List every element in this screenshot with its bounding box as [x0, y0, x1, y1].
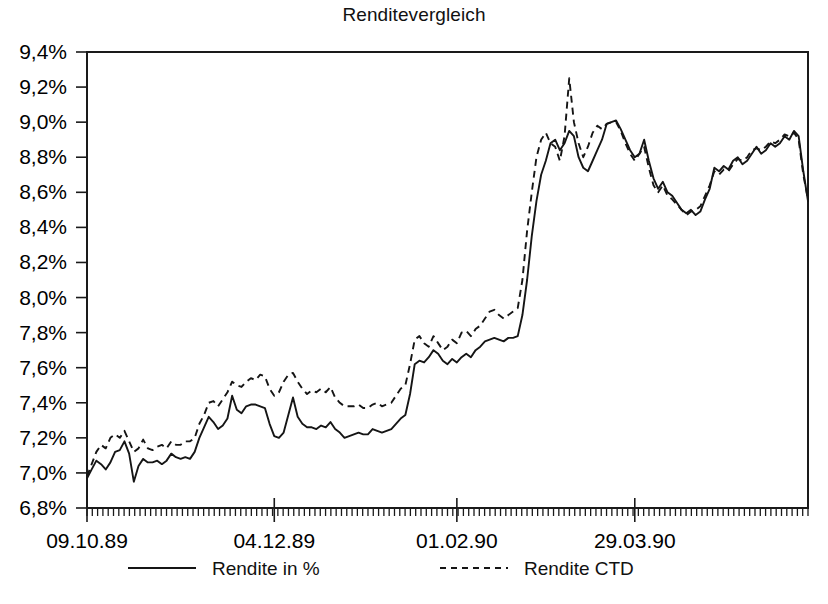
x-axis-tick-labels: 09.10.8904.12.8901.02.9029.03.90	[46, 529, 676, 552]
chart-figure: Renditevergleich 9,4%9,2%9,0%8,8%8,6%8,4…	[0, 0, 828, 604]
y-axis-tick-label: 6,8%	[19, 496, 67, 519]
y-axis-tick-label: 7,8%	[19, 321, 67, 344]
y-axis-tick-label: 8,8%	[19, 145, 67, 168]
y-axis-tick-label: 8,0%	[19, 286, 67, 309]
chart-plot: 9,4%9,2%9,0%8,8%8,6%8,4%8,2%8,0%7,8%7,6%…	[0, 0, 828, 604]
y-axis-tick-label: 8,2%	[19, 250, 67, 273]
y-axis-tick-label: 9,4%	[19, 40, 67, 63]
legend-label: Rendite in %	[212, 558, 320, 579]
series-line-rendite-in-prozent	[87, 120, 808, 481]
y-axis-tick-marks	[76, 52, 87, 508]
x-axis-tick-label: 09.10.89	[46, 529, 128, 552]
y-axis-tick-label: 9,2%	[19, 75, 67, 98]
y-axis-tick-labels: 9,4%9,2%9,0%8,8%8,6%8,4%8,2%8,0%7,8%7,6%…	[19, 40, 67, 519]
y-axis-tick-label: 8,6%	[19, 180, 67, 203]
legend-label: Rendite CTD	[524, 558, 634, 579]
x-axis-minor-ticks	[87, 508, 808, 516]
y-axis-tick-label: 7,2%	[19, 426, 67, 449]
x-axis-tick-label: 29.03.90	[594, 529, 676, 552]
series-line-rendite-ctd	[87, 78, 808, 476]
y-axis-tick-label: 8,4%	[19, 215, 67, 238]
y-axis-tick-label: 7,0%	[19, 461, 67, 484]
x-axis-tick-label: 01.02.90	[416, 529, 498, 552]
y-axis-tick-label: 7,6%	[19, 356, 67, 379]
y-axis-tick-label: 9,0%	[19, 110, 67, 133]
y-axis-tick-label: 7,4%	[19, 391, 67, 414]
chart-legend: Rendite in %Rendite CTD	[128, 558, 634, 579]
axis-frame	[87, 52, 808, 508]
x-axis-major-ticks	[87, 498, 635, 522]
x-axis-tick-label: 04.12.89	[233, 529, 315, 552]
